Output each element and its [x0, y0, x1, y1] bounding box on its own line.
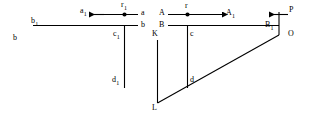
point-r-dot — [185, 12, 189, 16]
label-a-right: a — [141, 9, 145, 17]
label-A-left: A — [159, 9, 165, 17]
label-r1: r1 — [121, 1, 127, 11]
label-K: K — [152, 30, 158, 38]
label-B-left: B — [159, 21, 165, 29]
label-c: c — [190, 30, 194, 38]
label-b-outer: b — [13, 34, 17, 42]
label-L: L — [152, 104, 157, 112]
segment-L-O — [158, 35, 280, 103]
label-c1: c1 — [113, 30, 120, 40]
label-P: P — [289, 6, 294, 14]
label-r: r — [185, 2, 188, 10]
label-a1: a1 — [80, 7, 87, 17]
label-d: d — [190, 76, 194, 84]
label-A1: A1 — [226, 9, 235, 19]
label-b-right: b — [141, 21, 145, 29]
label-d1: d1 — [112, 76, 119, 86]
label-B1: B1 — [265, 21, 274, 31]
label-b1: b1 — [31, 17, 38, 27]
geometry-figure: b b1 a1 r1 a b c1 d1 A B r A1 B1 P O K L… — [0, 0, 312, 124]
point-r1-dot — [122, 12, 126, 16]
label-O: O — [288, 30, 294, 38]
